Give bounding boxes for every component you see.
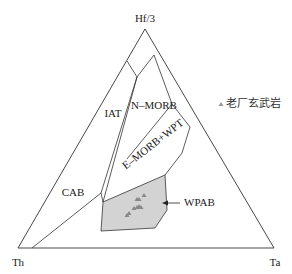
legend-triangle-icon <box>219 102 224 106</box>
field-label-iat: IAT <box>104 107 121 119</box>
iat-boundary <box>101 61 137 193</box>
legend-label: 老厂玄武岩 <box>226 96 281 110</box>
apex-label-top: Hf/3 <box>135 12 156 24</box>
n-morb-inner-left <box>103 77 137 202</box>
wpab-field <box>101 175 167 231</box>
field-label-e-morb-wpt: E–MORB+WPT <box>120 116 186 171</box>
field-label-n-morb: N–MORB <box>131 99 177 111</box>
field-label-cab: CAB <box>62 186 85 198</box>
apex-label-left: Th <box>12 256 25 268</box>
ternary-diagram: Hf/3 Th Ta IAT N–MORB E–MORB+WPT CAB WPA… <box>0 0 292 274</box>
legend: 老厂玄武岩 <box>219 96 282 110</box>
apex-label-right: Ta <box>270 256 281 268</box>
cab-boundary <box>32 193 103 248</box>
field-label-wpab: WPAB <box>184 196 215 208</box>
